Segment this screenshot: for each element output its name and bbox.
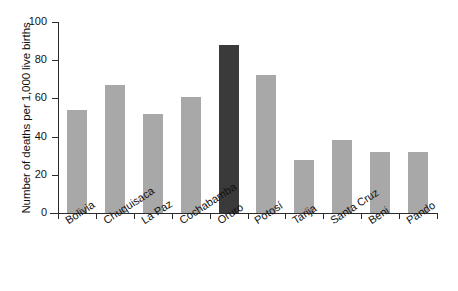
bar-beni	[370, 152, 390, 213]
bar-potosí	[256, 75, 276, 213]
y-tick-label: 60	[35, 91, 47, 103]
bar-chuquisaca	[105, 85, 125, 213]
y-tick-label: 20	[35, 168, 47, 180]
y-tick-label: 80	[35, 53, 47, 65]
y-tick-80: 80	[52, 60, 58, 61]
y-axis-title: Number of deaths per 1,000 live births	[20, 18, 32, 218]
y-tick-20: 20	[52, 175, 58, 176]
y-tick-label: 100	[29, 15, 47, 27]
plot-area: 020406080100	[58, 22, 437, 213]
y-tick-40: 40	[52, 137, 58, 138]
y-axis-line	[58, 22, 59, 213]
bar-bolivia	[67, 110, 87, 213]
x-axis-labels: BoliviaChuquisacaLa PazCochabambaOruroPo…	[58, 216, 458, 291]
y-tick-label: 40	[35, 130, 47, 142]
y-tick-60: 60	[52, 98, 58, 99]
bar-cochabamba	[181, 97, 201, 214]
bar-chart: Number of deaths per 1,000 live births 0…	[0, 0, 458, 291]
y-tick-label: 0	[41, 206, 47, 218]
y-tick-100: 100	[52, 22, 58, 23]
